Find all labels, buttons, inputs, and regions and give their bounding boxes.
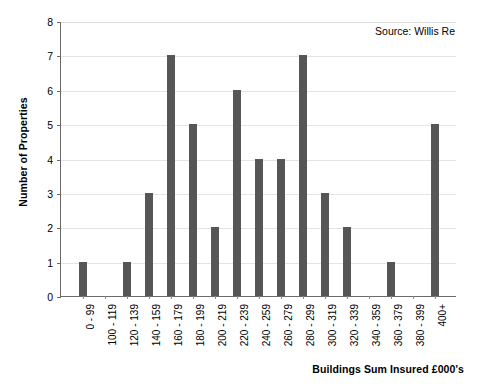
bar xyxy=(211,227,219,296)
y-axis-tick-label: 6 xyxy=(33,86,53,97)
gridline xyxy=(61,125,456,126)
bar xyxy=(233,90,241,296)
x-axis-tick-label: 140 - 159 xyxy=(152,304,162,374)
x-axis-tick xyxy=(369,296,370,299)
x-axis-tick-label: 100 - 119 xyxy=(108,304,118,374)
source-annotation: Source: Willis Re xyxy=(375,25,455,37)
bar xyxy=(277,159,285,297)
x-axis-tick xyxy=(149,296,150,299)
y-axis-tick-label: 2 xyxy=(33,223,53,234)
x-axis-tick-label: 320 - 339 xyxy=(350,304,360,374)
x-axis-tick xyxy=(193,296,194,299)
y-axis-tick-label: 8 xyxy=(33,17,53,28)
x-axis-tick xyxy=(215,296,216,299)
bar xyxy=(123,262,131,296)
x-axis-tick-label: 240 - 259 xyxy=(262,304,272,374)
x-axis-tick xyxy=(127,296,128,299)
x-axis-tick-label: 0 - 99 xyxy=(86,304,96,374)
x-axis-tick-label: 380 - 399 xyxy=(416,304,426,374)
y-axis-title: Number of Properties xyxy=(17,52,29,252)
y-axis-tick xyxy=(57,297,61,298)
bar xyxy=(387,262,395,296)
x-axis-tick xyxy=(325,296,326,299)
x-axis-tick-label: 200 - 219 xyxy=(218,304,228,374)
x-axis-tick-label: 300 - 319 xyxy=(328,304,338,374)
x-axis-tick xyxy=(435,296,436,299)
bar xyxy=(431,124,439,296)
plot-area: 012345678 xyxy=(60,22,456,297)
y-axis-tick-label: 4 xyxy=(33,154,53,165)
x-axis-tick-label: 180 - 199 xyxy=(196,304,206,374)
bar xyxy=(255,159,263,297)
gridline xyxy=(61,56,456,57)
x-axis-tick-label: 160 - 179 xyxy=(174,304,184,374)
bar xyxy=(145,193,153,296)
x-axis-tick-label: 280 - 299 xyxy=(306,304,316,374)
x-axis-tick xyxy=(237,296,238,299)
x-axis-tick xyxy=(83,296,84,299)
x-axis-tick xyxy=(391,296,392,299)
x-axis-tick-label: 400+ xyxy=(438,304,448,374)
plot-inner: 012345678 xyxy=(61,22,456,296)
gridline xyxy=(61,22,456,23)
bar xyxy=(189,124,197,296)
x-axis-tick xyxy=(303,296,304,299)
x-axis-tick xyxy=(281,296,282,299)
x-axis-tick xyxy=(347,296,348,299)
gridline xyxy=(61,91,456,92)
bar xyxy=(167,55,175,296)
x-axis-tick-label: 340 - 359 xyxy=(372,304,382,374)
x-axis-tick xyxy=(171,296,172,299)
bar xyxy=(321,193,329,296)
y-axis-tick xyxy=(57,22,61,23)
x-axis-tick-label: 360 - 379 xyxy=(394,304,404,374)
bar xyxy=(299,55,307,296)
bar xyxy=(79,262,87,296)
y-axis-tick xyxy=(57,91,61,92)
x-axis-tick xyxy=(259,296,260,299)
y-axis-tick-label: 0 xyxy=(33,292,53,303)
y-axis-tick xyxy=(57,125,61,126)
x-axis-tick-label: 220 - 239 xyxy=(240,304,250,374)
y-axis-tick-label: 3 xyxy=(33,189,53,200)
x-axis-tick xyxy=(413,296,414,299)
y-axis-tick-label: 5 xyxy=(33,120,53,131)
y-axis-tick xyxy=(57,194,61,195)
y-axis-tick xyxy=(57,56,61,57)
y-axis-tick-label: 7 xyxy=(33,51,53,62)
bar xyxy=(343,227,351,296)
y-axis-tick xyxy=(57,263,61,264)
x-axis-tick-label: 260 - 279 xyxy=(284,304,294,374)
y-axis-tick xyxy=(57,228,61,229)
x-axis-tick-label: 120 - 139 xyxy=(130,304,140,374)
y-axis-tick xyxy=(57,160,61,161)
bar-chart: Number of Properties 012345678 Source: W… xyxy=(0,0,479,386)
x-axis-tick xyxy=(105,296,106,299)
y-axis-tick-label: 1 xyxy=(33,257,53,268)
